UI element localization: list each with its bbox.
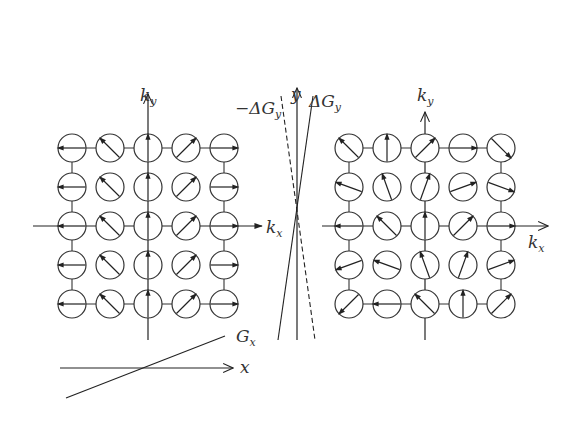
spin-cell — [411, 290, 439, 318]
spin-cell — [487, 290, 515, 318]
spin-cell — [449, 173, 477, 201]
spin-cell — [334, 212, 363, 240]
spin-cell — [335, 290, 363, 318]
spin-cell — [134, 172, 162, 201]
spin-cell — [57, 212, 86, 240]
spin-cell — [373, 251, 401, 279]
spin-cell — [335, 251, 363, 279]
spin-cell — [372, 290, 401, 318]
spin-cell — [335, 173, 363, 201]
spin-cell — [172, 251, 200, 279]
spin-cell — [373, 212, 401, 240]
gx-line — [66, 336, 225, 398]
spin-cell — [57, 134, 86, 162]
spin-cell — [172, 173, 200, 201]
spin-cell — [57, 173, 86, 201]
spin-cell — [411, 211, 439, 240]
spin-cell — [449, 212, 477, 240]
spin-cell — [172, 134, 200, 162]
gx-label: Gx — [236, 326, 257, 349]
delta-gy-line — [278, 96, 313, 340]
spin-cell — [172, 212, 200, 240]
y-label: y — [290, 84, 301, 104]
spin-cell — [96, 290, 124, 318]
bottom-panel: x Gx — [60, 326, 257, 398]
spin-cell — [487, 173, 515, 201]
spin-cell — [96, 251, 124, 279]
right-panel: ky kx — [322, 85, 548, 340]
spin-cell — [487, 251, 515, 279]
left-ky-label: ky — [140, 85, 157, 108]
right-spin-grid — [334, 133, 517, 318]
spin-cell — [57, 251, 86, 279]
neg-delta-gy-line — [281, 96, 315, 340]
spin-cell — [134, 289, 162, 318]
spin-cell — [172, 290, 200, 318]
spin-cell — [487, 134, 515, 162]
middle-panel: y ΔGy −ΔGy — [235, 84, 342, 340]
spin-cell — [449, 251, 477, 279]
spin-cell — [449, 134, 478, 162]
spin-cell — [411, 134, 439, 162]
spin-cell — [96, 212, 124, 240]
spin-cell — [96, 134, 124, 162]
spin-cell — [57, 290, 86, 318]
spin-cell — [411, 173, 439, 201]
spin-cell — [210, 212, 239, 240]
right-kx-label: kx — [528, 232, 545, 255]
spin-cell — [449, 289, 477, 318]
spin-cell — [96, 173, 124, 201]
spin-cell — [210, 173, 239, 201]
x-label: x — [240, 357, 250, 377]
left-kx-label: kx — [266, 217, 283, 240]
spin-cell — [210, 251, 239, 279]
spin-cell — [411, 251, 439, 279]
spin-cell — [373, 173, 401, 201]
spin-cell — [210, 134, 239, 162]
left-spin-grid — [57, 133, 240, 318]
spin-cell — [134, 133, 162, 162]
right-ky-label: ky — [417, 85, 434, 108]
delta-gy-label: ΔGy — [308, 91, 342, 114]
spin-cell — [210, 290, 239, 318]
spin-cell — [487, 212, 516, 240]
spin-cell — [134, 211, 162, 240]
physics-diagram: ky kx y ΔGy −ΔGy x Gx ky kx — [0, 0, 578, 426]
spin-cell — [134, 250, 162, 279]
neg-delta-gy-label: −ΔGy — [235, 98, 282, 121]
spin-cell — [373, 133, 401, 162]
left-panel: ky kx — [33, 85, 283, 340]
spin-cell — [335, 134, 363, 162]
